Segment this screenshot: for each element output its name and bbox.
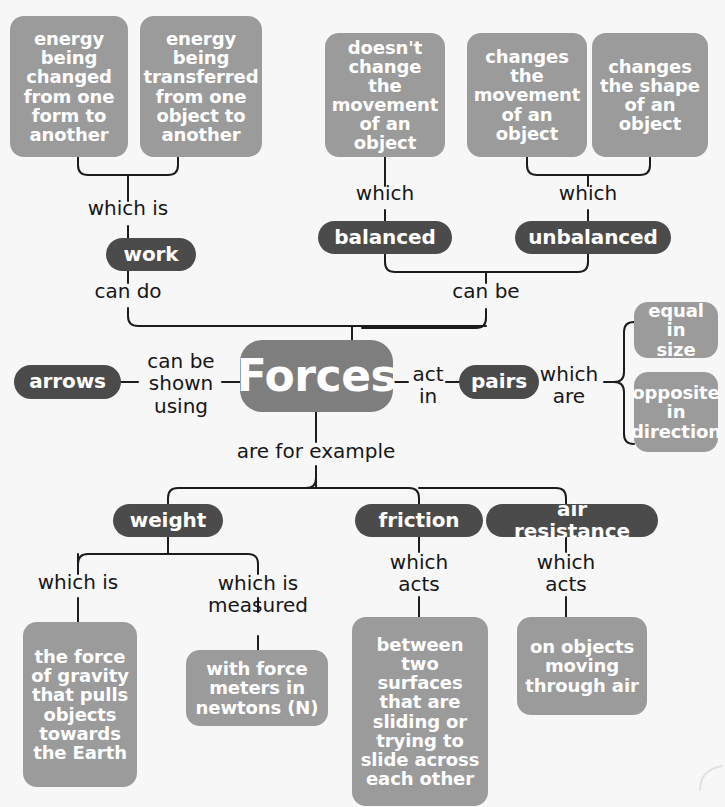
- link-label-which-are: which are: [530, 363, 608, 408]
- node-unbalanced[interactable]: unbalanced: [515, 221, 671, 254]
- node-between-surfaces[interactable]: between two surfaces that are sliding or…: [352, 617, 488, 806]
- node-on-objects-air[interactable]: on objects moving through air: [517, 617, 647, 715]
- node-force-meters[interactable]: with force meters in newtons (N): [186, 650, 328, 726]
- node-arrows[interactable]: arrows: [14, 365, 121, 399]
- link-label-which-acts-friction: which acts: [374, 551, 464, 596]
- node-changes-movement[interactable]: changes the movement of an object: [467, 33, 587, 157]
- node-force-of-gravity[interactable]: the force of gravity that pulls objects …: [23, 622, 137, 787]
- link-label-which-is-measured: which is measured: [196, 572, 320, 617]
- node-energy-changed[interactable]: energy being changed from one form to an…: [10, 16, 128, 157]
- node-air-resistance[interactable]: air resistance: [486, 504, 658, 537]
- link-label-which-is-work: which is: [68, 198, 188, 218]
- link-label-can-do: can do: [73, 281, 183, 301]
- concept-map-canvas: energy being changed from one form to an…: [0, 0, 725, 807]
- link-label-which-acts-air: which acts: [521, 551, 611, 596]
- node-changes-shape[interactable]: changes the shape of an object: [592, 33, 708, 157]
- node-balanced[interactable]: balanced: [318, 221, 452, 254]
- link-label-which-balanced: which: [335, 183, 435, 203]
- link-label-act-in: act in: [403, 363, 453, 408]
- link-label-can-be: can be: [436, 281, 536, 301]
- node-opposite-in-direction[interactable]: opposite in direction: [634, 372, 718, 452]
- link-label-are-for-example: are for example: [206, 441, 426, 461]
- node-friction[interactable]: friction: [355, 504, 483, 537]
- link-label-which-is-gravity: which is: [24, 572, 132, 592]
- link-label-can-be-shown-using: can be shown using: [136, 350, 226, 417]
- node-work[interactable]: work: [106, 238, 196, 271]
- node-equal-in-size[interactable]: equal in size: [634, 302, 718, 358]
- node-energy-transferred[interactable]: energy being transferred from one object…: [140, 16, 262, 157]
- node-pairs[interactable]: pairs: [459, 365, 539, 399]
- node-forces-root[interactable]: Forces: [240, 340, 393, 412]
- node-doesnt-change-movement[interactable]: doesn't change the movement of an object: [325, 33, 445, 157]
- link-label-which-unbalanced: which: [538, 183, 638, 203]
- node-weight[interactable]: weight: [113, 504, 223, 537]
